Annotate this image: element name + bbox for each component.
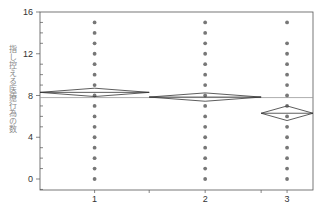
data-point [203, 52, 207, 56]
data-point [203, 114, 207, 118]
data-point [93, 31, 97, 35]
data-point [203, 62, 207, 66]
data-point [93, 73, 97, 77]
data-point [93, 62, 97, 66]
data-point [93, 177, 97, 181]
data-point [93, 167, 97, 171]
data-point [93, 135, 97, 139]
data-point [93, 83, 97, 87]
data-point [93, 114, 97, 118]
data-point [203, 83, 207, 87]
data-point [285, 125, 289, 129]
data-point [285, 62, 289, 66]
data-point [285, 73, 289, 77]
y-tick-label: 0 [28, 174, 33, 184]
y-tick-label: 12 [23, 49, 33, 59]
data-point [203, 21, 207, 25]
data-point [203, 156, 207, 160]
data-point [203, 146, 207, 150]
y-tick-label: 4 [28, 132, 33, 142]
data-point [285, 83, 289, 87]
data-point [203, 177, 207, 181]
data-point [285, 21, 289, 25]
data-point [285, 94, 289, 98]
data-point [285, 156, 289, 160]
data-point [93, 146, 97, 150]
data-point [285, 177, 289, 181]
data-point [285, 52, 289, 56]
x-tick-label: 1 [92, 194, 97, 204]
data-point [285, 146, 289, 150]
data-point [203, 31, 207, 35]
plot-frame [40, 12, 313, 190]
data-point [203, 125, 207, 129]
data-point [93, 41, 97, 45]
data-point [93, 104, 97, 108]
y-tick-label: 8 [28, 91, 33, 101]
data-point [285, 167, 289, 171]
data-point [93, 125, 97, 129]
y-axis-label: 指し控える医療行為の数 [4, 45, 16, 133]
data-point [203, 104, 207, 108]
data-point [93, 21, 97, 25]
data-point [93, 52, 97, 56]
x-tick-label: 3 [285, 194, 290, 204]
data-point [285, 114, 289, 118]
data-point [285, 41, 289, 45]
y-tick-label: 16 [23, 7, 33, 17]
data-point [93, 156, 97, 160]
data-point [285, 135, 289, 139]
data-point [203, 41, 207, 45]
data-point [203, 167, 207, 171]
x-tick-label: 2 [203, 194, 208, 204]
data-point [203, 135, 207, 139]
data-point [203, 73, 207, 77]
anova-plot: 0481216123 [0, 0, 318, 205]
